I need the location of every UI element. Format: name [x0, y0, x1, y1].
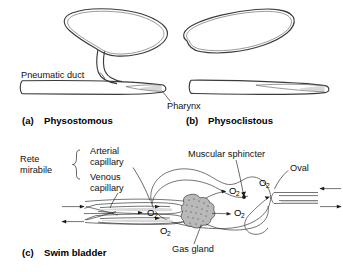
panel-b-group: (b) Physoclistous [184, 9, 329, 126]
oval-arrow-in [319, 187, 341, 191]
panel-b-esophagus-left-cap [189, 80, 191, 93]
panel-a-esophagus-bottom [22, 92, 162, 94]
leader-venous-capillary [110, 193, 118, 208]
o2-return-arrowhead [265, 196, 270, 199]
oval-arrow-out [320, 205, 342, 209]
panel-a-bladder-inner [68, 11, 164, 54]
panel-a-esophagus-top [22, 81, 162, 85]
figure-canvas: Pneumatic duct (a) Physostomous (b) Phys… [0, 0, 343, 272]
panel-a-caption-marker: (a) [22, 115, 34, 126]
panel-a-esophagus-left-cap [20, 81, 22, 94]
swim-bladder-figure: Pneumatic duct (a) Physostomous (b) Phys… [0, 0, 343, 272]
panel-c-caption-label: Swim bladder [44, 247, 107, 258]
leader-oval [275, 171, 289, 190]
o2-gland-upper: O 2 [229, 185, 240, 197]
label-gas-gland: Gas gland [172, 244, 214, 254]
o2-return-curve [250, 198, 268, 214]
rete-bracket [73, 150, 81, 179]
o2-gland-lower: O 2 [234, 207, 245, 219]
rete-sheath-upper [85, 199, 194, 202]
o2-oval-sub: 2 [266, 182, 270, 189]
panel-a-pneumatic-duct-left [97, 50, 117, 83]
label-venous-line2: capillary [90, 183, 124, 193]
rete-shading [102, 208, 172, 211]
label-pharynx: Pharynx [167, 101, 201, 111]
oval-duct-left-cap [271, 193, 274, 204]
panel-b-bladder-outline [184, 9, 295, 53]
o2-oval: O 2 [259, 177, 270, 189]
label-arterial-line1: Arterial [90, 146, 119, 156]
panel-b-caption-marker: (b) [186, 115, 198, 126]
label-venous-line1: Venous [90, 172, 121, 182]
rete-arrow-out-lower [61, 220, 84, 224]
rete-arrow-in-upper [62, 205, 85, 209]
label-muscular-sphincter: Muscular sphincter [188, 149, 265, 159]
label-pneumatic-duct: Pneumatic duct [21, 70, 85, 80]
panel-a-esophagus-right-cap [162, 85, 166, 92]
label-rete-line2: mirabile [20, 165, 52, 175]
o2-arrow-upper [206, 190, 226, 198]
label-arterial-line2: capillary [90, 157, 124, 167]
panel-a-caption-label: Physostomous [44, 115, 113, 126]
panel-c-caption-marker: (c) [22, 247, 34, 258]
panel-b-bladder-inner [187, 11, 292, 50]
panel-b-caption-label: Physoclistous [208, 115, 273, 126]
o2-gland-upper-sub: 2 [236, 190, 240, 197]
panel-c-group: Rete mirabile Arterial capillary Venous … [20, 146, 342, 257]
panel-b-esophagus-right-cap [325, 86, 329, 93]
label-rete-line1: Rete [20, 154, 39, 164]
o2-rete-lower: O 2 [160, 225, 171, 237]
rete-internal-arrow-1 [155, 205, 160, 209]
rete-shading-2 [102, 219, 172, 222]
oval-membrane-shade [281, 201, 318, 203]
panel-b-esophagus-bottom [191, 93, 325, 95]
o2-gland-lower-sub: 2 [241, 212, 245, 219]
panel-a-bladder-outline [64, 9, 167, 56]
panel-a-group: Pneumatic duct (a) Physostomous [20, 9, 167, 126]
leader-arterial-capillary [133, 168, 150, 201]
o2-rete-center-sub: 2 [154, 212, 158, 219]
o2-rete-lower-sub: 2 [167, 230, 171, 237]
leader-pharynx [162, 91, 171, 102]
label-oval: Oval [290, 163, 309, 173]
